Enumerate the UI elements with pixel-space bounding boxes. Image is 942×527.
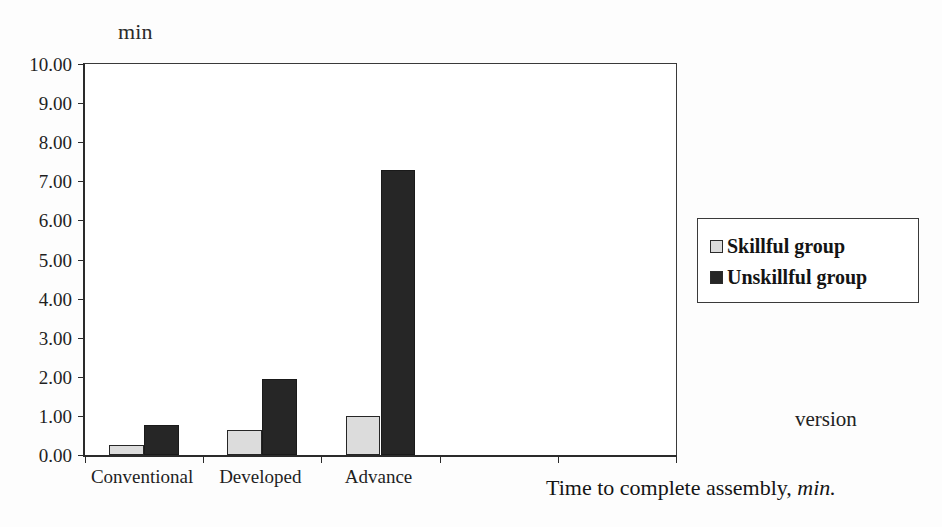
chart-page: min 10.009.008.007.006.005.004.003.002.0… (0, 0, 942, 527)
y-axis-tick-mark (78, 220, 85, 221)
legend-item-skillful[interactable]: Skillful group (710, 235, 906, 257)
bar-conventional-unskillful[interactable] (144, 425, 179, 455)
legend-item-unskillful[interactable]: Unskillful group (710, 266, 906, 288)
x-axis-tick-mark (558, 455, 559, 463)
x-axis-tick-mark (85, 455, 86, 463)
x-axis-title: version (795, 407, 857, 431)
x-axis-category-label: Advance (345, 466, 413, 488)
y-axis-tick-mark (78, 299, 85, 300)
y-axis-unit-label: min (118, 18, 153, 46)
legend-label-unskillful: Unskillful group (727, 266, 867, 288)
legend-swatch-skillful-icon (710, 240, 723, 253)
bar-developed-unskillful[interactable] (262, 379, 297, 455)
y-axis-tick-mark (78, 181, 85, 182)
bar-developed-skillful[interactable] (227, 430, 262, 455)
y-axis-tick-mark (78, 142, 85, 143)
y-axis-tick-mark (78, 260, 85, 261)
y-axis-tick-mark (78, 377, 85, 378)
x-axis-tick-mark (203, 455, 204, 463)
figure-caption: Time to complete assembly, min. (546, 475, 836, 501)
x-axis-category-label: Conventional (91, 466, 193, 488)
legend-swatch-unskillful-icon (710, 271, 723, 284)
y-axis-tick-mark (78, 103, 85, 104)
x-axis-tick-mark (321, 455, 322, 463)
bar-advance-skillful[interactable] (346, 416, 381, 455)
y-axis-tick-mark (78, 416, 85, 417)
x-axis-tick-mark (440, 455, 441, 463)
y-axis-tick-mark (78, 455, 85, 456)
bar-conventional-skillful[interactable] (109, 445, 144, 455)
figure-caption-unit: min. (797, 475, 836, 500)
chart-legend: Skillful group Unskillful group (697, 218, 919, 303)
legend-label-skillful: Skillful group (727, 235, 845, 257)
plot-area: 10.009.008.007.006.005.004.003.002.001.0… (83, 63, 677, 457)
figure-caption-main: Time to complete assembly, (546, 475, 792, 500)
x-axis-tick-mark (676, 455, 677, 463)
y-axis-tick-mark (78, 64, 85, 65)
bar-advance-unskillful[interactable] (381, 170, 416, 455)
y-axis-tick-label: 10.00 (29, 55, 85, 74)
x-axis-category-label: Developed (219, 466, 301, 488)
y-axis-tick-mark (78, 338, 85, 339)
